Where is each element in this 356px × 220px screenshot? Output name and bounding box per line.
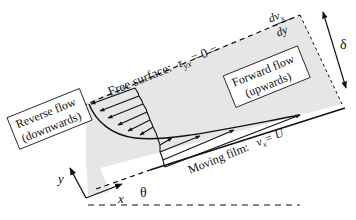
y-axis-arrow [70,168,86,198]
reverse-flow-box: Reverse flow (downwards) [7,89,92,150]
thickness-label: δ [340,37,347,52]
angle-label: θ [140,185,147,200]
x-axis-label: x [117,191,124,206]
film-flow-diagram: δ Free surface: τyx= 0 = dvx dy Forward … [0,0,356,220]
y-axis-label: y [56,171,64,186]
